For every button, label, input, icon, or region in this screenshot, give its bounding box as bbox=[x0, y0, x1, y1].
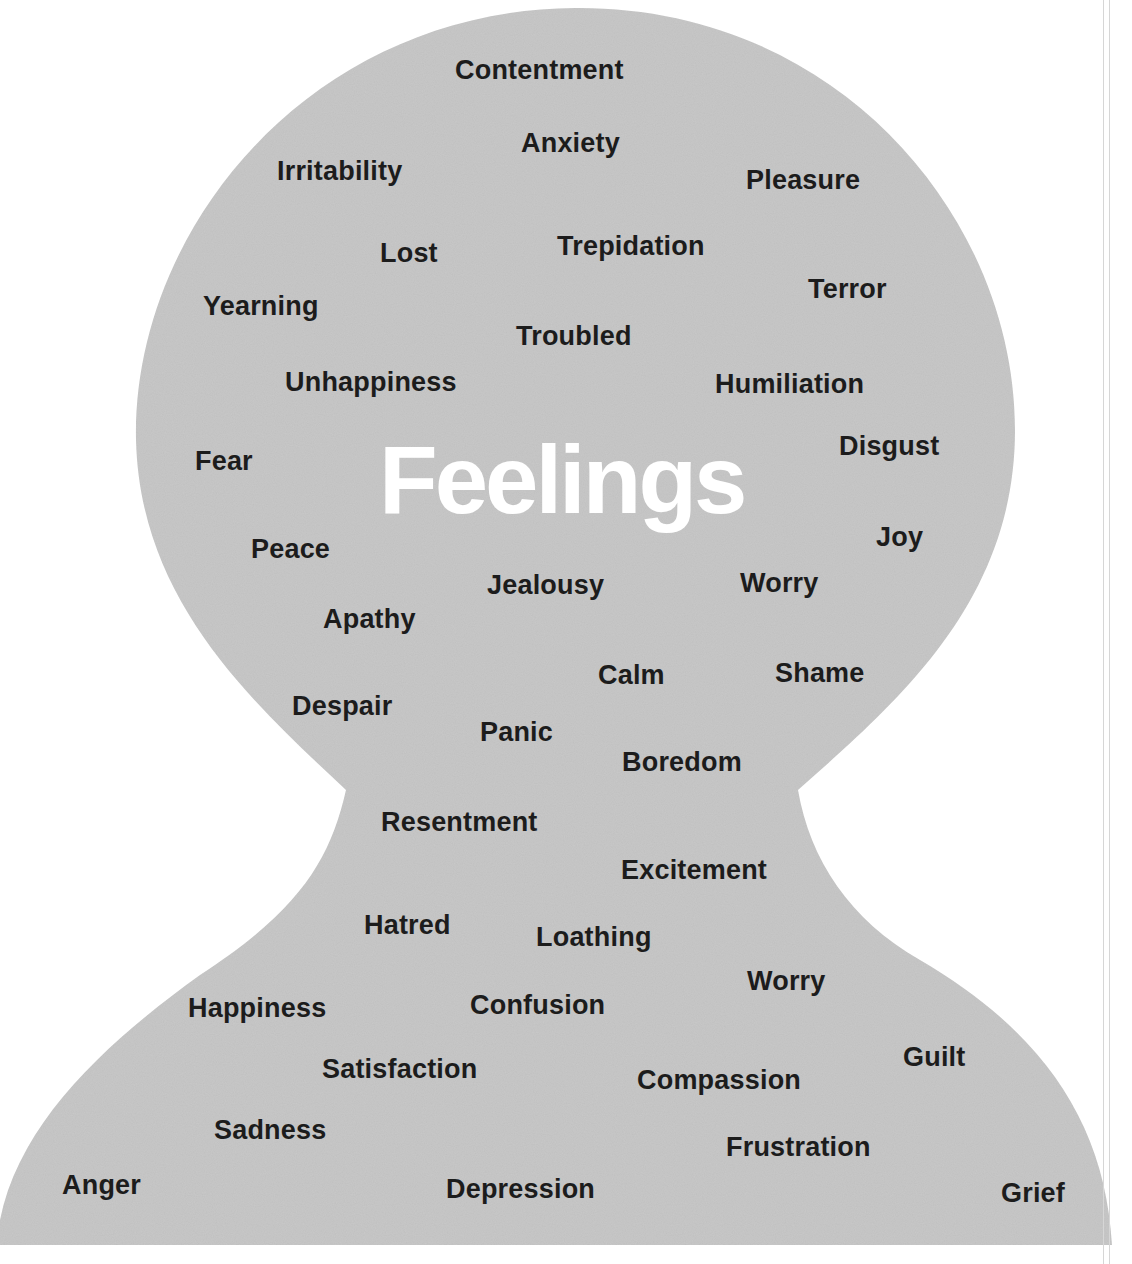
page-edge-line bbox=[1103, 0, 1104, 1264]
title-feelings: Feelings bbox=[379, 432, 744, 528]
word-fear: Fear bbox=[195, 448, 253, 475]
word-joy: Joy bbox=[876, 524, 923, 551]
word-panic: Panic bbox=[480, 719, 553, 746]
word-guilt: Guilt bbox=[903, 1044, 966, 1071]
word-resentment: Resentment bbox=[381, 809, 538, 836]
word-sadness: Sadness bbox=[214, 1117, 326, 1144]
word-happiness: Happiness bbox=[188, 995, 326, 1022]
word-hatred: Hatred bbox=[364, 912, 451, 939]
word-grief: Grief bbox=[1001, 1180, 1065, 1207]
word-yearning: Yearning bbox=[203, 293, 319, 320]
word-trepidation: Trepidation bbox=[557, 233, 705, 260]
word-confusion: Confusion bbox=[470, 992, 605, 1019]
word-disgust: Disgust bbox=[839, 433, 939, 460]
word-humiliation: Humiliation bbox=[715, 371, 864, 398]
word-frustration: Frustration bbox=[726, 1134, 871, 1161]
word-shame: Shame bbox=[775, 660, 865, 687]
word-jealousy: Jealousy bbox=[487, 572, 604, 599]
word-satisfaction: Satisfaction bbox=[322, 1056, 477, 1083]
word-lost: Lost bbox=[380, 240, 438, 267]
word-worry: Worry bbox=[740, 570, 819, 597]
word-apathy: Apathy bbox=[323, 606, 416, 633]
word-contentment: Contentment bbox=[455, 57, 624, 84]
word-peace: Peace bbox=[251, 536, 330, 563]
word-anxiety: Anxiety bbox=[521, 130, 620, 157]
word-calm: Calm bbox=[598, 662, 665, 689]
word-anger: Anger bbox=[62, 1172, 141, 1199]
page-edge-line bbox=[1109, 0, 1110, 1264]
word-troubled: Troubled bbox=[516, 323, 632, 350]
word-terror: Terror bbox=[808, 276, 887, 303]
word-compassion: Compassion bbox=[637, 1067, 801, 1094]
word-loathing: Loathing bbox=[536, 924, 652, 951]
word-boredom: Boredom bbox=[622, 749, 742, 776]
word-excitement: Excitement bbox=[621, 857, 767, 884]
word-unhappiness: Unhappiness bbox=[285, 369, 457, 396]
word-despair: Despair bbox=[292, 693, 392, 720]
feelings-word-cloud: Feelings ContentmentAnxietyIrritabilityP… bbox=[0, 0, 1132, 1264]
head-silhouette bbox=[0, 0, 1132, 1264]
word-irritability: Irritability bbox=[277, 158, 402, 185]
word-depression: Depression bbox=[446, 1176, 595, 1203]
word-pleasure: Pleasure bbox=[746, 167, 860, 194]
word-worry: Worry bbox=[747, 968, 826, 995]
